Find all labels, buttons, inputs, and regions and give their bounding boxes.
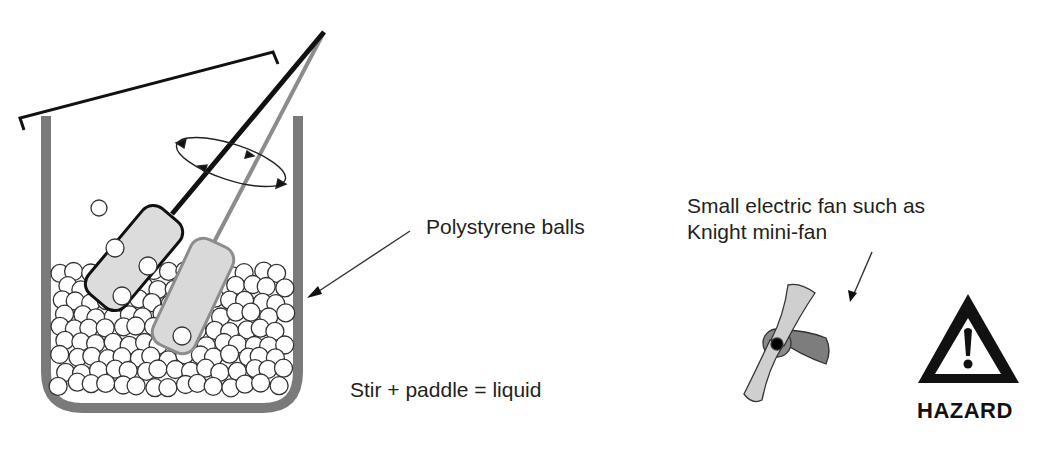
fan-icon [744,284,829,401]
warning-triangle-icon [918,294,1019,383]
rotation-indicator-icon [171,127,291,196]
fan-label-line1: Small electric fan such as [687,193,925,218]
hazard-label: HAZARD [917,398,1013,424]
stir-caption: Stir + paddle = liquid [350,377,541,402]
polystyrene-label: Polystyrene balls [426,214,585,239]
fan-arrow [848,252,872,302]
beaker-lid [20,52,278,130]
fan-label-line2: Knight mini-fan [687,219,827,244]
polystyrene-arrow [307,231,410,298]
